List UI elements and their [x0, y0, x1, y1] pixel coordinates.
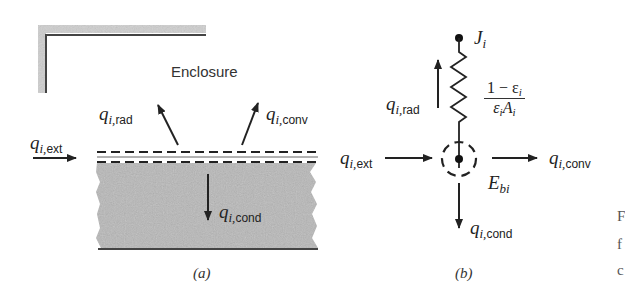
surface-resistance-fraction: 1 − εi εiAi: [484, 79, 525, 117]
resistor: [451, 38, 466, 168]
arrow-rad-a: [158, 105, 178, 145]
arrow-conv-a: [242, 103, 258, 145]
flux-label-conv-a: qi,conv: [266, 104, 308, 123]
radiosity-label: Ji: [474, 28, 486, 47]
panel-b-caption: (b): [455, 266, 473, 281]
clipped-caption-fragment: c: [617, 262, 624, 279]
thermal-network: [385, 34, 537, 228]
flux-label-ext-a: qi,ext: [30, 133, 62, 152]
blackbody-node: [455, 155, 463, 163]
panel-a-caption: (a): [193, 266, 211, 281]
blackbody-label: Ebi: [488, 173, 510, 192]
flux-label-ext-b: qi,ext: [340, 148, 372, 167]
flux-label-cond-a: qi,cond: [219, 202, 261, 221]
flux-label-rad-a: qi,rad: [99, 104, 133, 123]
clipped-caption-fragment: F: [617, 208, 625, 225]
clipped-caption-fragment: f: [617, 236, 622, 253]
flux-label-rad-b: qi,rad: [386, 94, 420, 113]
flux-label-cond-b: qi,cond: [470, 218, 512, 237]
flux-label-conv-b: qi,conv: [549, 148, 591, 167]
enclosure-label: Enclosure: [171, 64, 238, 79]
enclosure-wall: [38, 25, 206, 93]
